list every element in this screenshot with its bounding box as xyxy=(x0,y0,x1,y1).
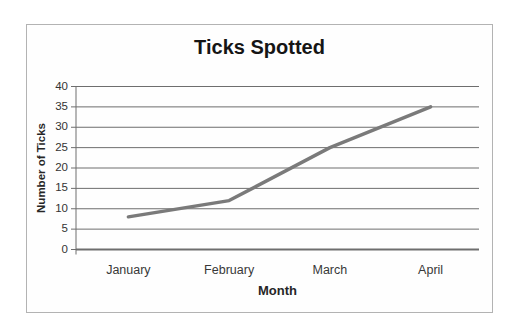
data-line-ticks-spotted xyxy=(128,107,430,217)
chart-image: Ticks Spotted Number of Ticks Month 0510… xyxy=(0,0,522,336)
y-tick-label: 5 xyxy=(27,222,68,234)
y-tick-label: 15 xyxy=(27,181,68,193)
y-tick-label: 10 xyxy=(27,202,68,214)
y-tick-label: 25 xyxy=(27,141,68,153)
y-tick-label: 35 xyxy=(27,100,68,112)
y-tick-label: 20 xyxy=(27,161,68,173)
x-tick-label: March xyxy=(282,263,378,277)
x-tick-label: February xyxy=(181,263,277,277)
y-tick-label: 0 xyxy=(27,243,68,255)
y-tick-label: 40 xyxy=(27,80,68,92)
x-tick-label: January xyxy=(80,263,176,277)
x-tick-label: April xyxy=(383,263,479,277)
chart-frame: Ticks Spotted Number of Ticks Month 0510… xyxy=(26,24,493,313)
y-tick-label: 30 xyxy=(27,120,68,132)
